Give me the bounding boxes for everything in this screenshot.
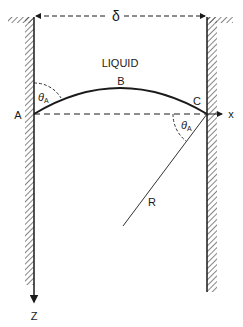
theta-left-subscript: A: [44, 97, 49, 104]
point-b-label: B: [117, 75, 124, 87]
left-wall: [8, 17, 34, 302]
radius: R: [123, 114, 207, 226]
svg-text:θA: θA: [181, 119, 192, 132]
radius-label: R: [148, 196, 156, 208]
delta-dimension: δ: [36, 8, 205, 24]
point-c-label: C: [193, 95, 201, 107]
right-wall: [207, 17, 233, 292]
liquid-label: LIQUID: [102, 57, 139, 69]
x-axis-label: x: [228, 108, 234, 120]
point-a-label: A: [14, 109, 22, 121]
meniscus-diagram: δ LIQUID x A B C θA θA R Z: [0, 0, 243, 327]
svg-text:θA: θA: [38, 91, 49, 104]
meniscus-curve: [34, 88, 207, 114]
left-contact-angle: θA: [34, 83, 61, 104]
z-axis-label: Z: [31, 310, 38, 322]
right-contact-angle: θA: [173, 114, 192, 141]
delta-label: δ: [112, 8, 120, 24]
theta-right-subscript: A: [187, 125, 192, 132]
